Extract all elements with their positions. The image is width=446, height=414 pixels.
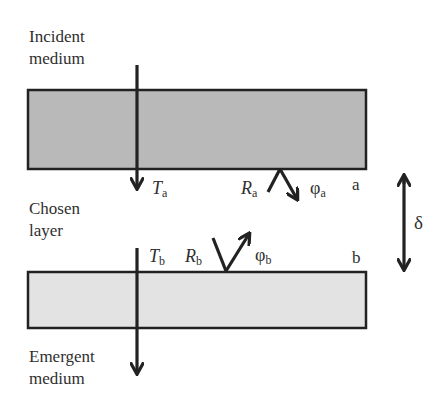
R-symbol: R bbox=[241, 178, 252, 198]
chosen-line1: Chosen bbox=[29, 198, 80, 220]
phi-subscript: a bbox=[320, 186, 325, 200]
transmittance-a-label: Ta bbox=[152, 178, 167, 201]
incident-medium-label: Incident medium bbox=[29, 26, 85, 70]
T-subscript: a bbox=[162, 186, 167, 200]
T-symbol: T bbox=[152, 178, 162, 198]
T-symbol: T bbox=[149, 246, 159, 266]
phase-b-label: φb bbox=[255, 245, 271, 268]
reflectance-b-label: Rb bbox=[185, 246, 202, 269]
incident-line1: Incident bbox=[29, 26, 85, 48]
interface-b-letter: b bbox=[352, 248, 361, 268]
phi-subscript: b bbox=[265, 253, 271, 267]
interface-a-letter: a bbox=[352, 175, 360, 195]
chosen-line2: layer bbox=[29, 220, 80, 242]
phase-a-label: φa bbox=[310, 178, 326, 201]
emergent-line2: medium bbox=[29, 368, 95, 390]
top-layer-block bbox=[28, 90, 366, 169]
emergent-line1: Emergent bbox=[29, 346, 95, 368]
thickness-delta-label: δ bbox=[414, 212, 423, 234]
reflection-b-icon bbox=[213, 234, 249, 271]
phi-symbol: φ bbox=[310, 178, 320, 198]
reflectance-a-label: Ra bbox=[241, 178, 257, 201]
incident-line2: medium bbox=[29, 48, 85, 70]
bottom-layer-block bbox=[28, 272, 366, 328]
T-subscript: b bbox=[159, 254, 165, 268]
chosen-layer-label: Chosen layer bbox=[29, 198, 80, 242]
R-symbol: R bbox=[185, 246, 196, 266]
reflection-a-icon bbox=[268, 169, 297, 199]
emergent-medium-label: Emergent medium bbox=[29, 346, 95, 390]
transmittance-b-label: Tb bbox=[149, 246, 165, 269]
R-subscript: a bbox=[252, 186, 257, 200]
R-subscript: b bbox=[196, 254, 202, 268]
phi-symbol: φ bbox=[255, 245, 265, 265]
